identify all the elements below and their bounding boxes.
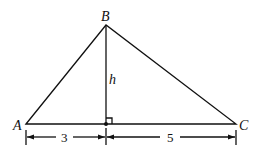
arrowhead-right-end bbox=[228, 135, 235, 140]
arrowhead-left-start bbox=[27, 135, 34, 140]
segment-length-left: 3 bbox=[61, 130, 68, 145]
foot-point bbox=[104, 122, 108, 126]
vertex-label-a: A bbox=[12, 118, 22, 133]
triangle-abc bbox=[26, 25, 236, 124]
segment-length-right: 5 bbox=[167, 130, 174, 145]
triangle-diagram: B A C h 3 5 bbox=[0, 0, 257, 154]
arrowhead-right-start bbox=[107, 135, 114, 140]
altitude-label: h bbox=[109, 72, 116, 87]
vertex-label-b: B bbox=[101, 9, 110, 24]
vertex-label-c: C bbox=[239, 118, 249, 133]
arrowhead-left-end bbox=[98, 135, 105, 140]
